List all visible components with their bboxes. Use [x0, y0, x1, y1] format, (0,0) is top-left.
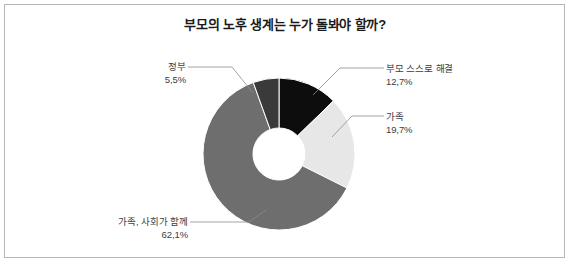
callout-family-value: 19,7% — [386, 123, 526, 136]
callout-family-society: 가족, 사회가 함께 62,1% — [60, 215, 188, 241]
leader-line-self — [313, 68, 384, 95]
callout-self-solve-value: 12,7% — [386, 75, 526, 88]
callout-family-society-value: 62,1% — [60, 228, 188, 241]
donut-slice-group — [203, 78, 355, 230]
callout-self-solve: 부모 스스로 해결 12,7% — [386, 62, 526, 88]
callout-family-label: 가족 — [386, 111, 404, 122]
callout-government: 정부 5,5% — [110, 60, 186, 86]
callout-government-label: 정부 — [168, 61, 186, 72]
callout-family: 가족 19,7% — [386, 110, 526, 136]
chart-page: 부모의 노후 생계는 누가 돌봐야 할까? 정부 5,5% 부모 스스로 해결 … — [0, 0, 570, 263]
callout-government-value: 5,5% — [110, 73, 186, 86]
callout-family-society-label: 가족, 사회가 함께 — [118, 216, 188, 227]
callout-self-solve-label: 부모 스스로 해결 — [386, 63, 453, 74]
